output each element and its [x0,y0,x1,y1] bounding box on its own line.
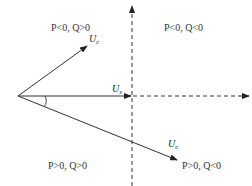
label-uc-upper-sub: c [96,38,99,46]
quadrant-upper-right-label: P<0, Q<0 [164,23,203,33]
angle-arc [44,96,46,107]
vector-uc-lower [18,96,177,160]
label-us-sub: s [119,88,122,96]
label-uc-lower: Uc [168,139,178,151]
phasor-diagram-canvas [0,0,252,186]
quadrant-upper-left-label: P<0, Q>0 [51,23,90,33]
quadrant-lower-right-label: P>0, Q<0 [182,161,221,171]
vector-uc-upper [18,46,87,96]
label-us-reference: Us [112,84,122,96]
label-uc-upper: Uc [89,34,99,46]
quadrant-lower-left-label: P>0, Q>0 [48,161,87,171]
label-uc-lower-sub: c [175,143,178,151]
